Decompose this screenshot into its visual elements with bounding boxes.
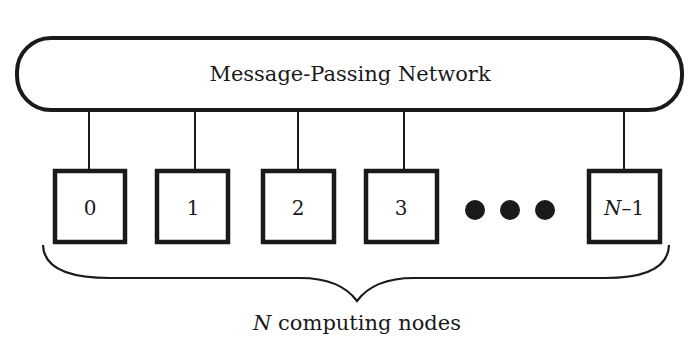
node-label-var: N (603, 196, 623, 220)
node-label: 3 (395, 196, 408, 220)
node-label-suffix: –1 (621, 196, 644, 220)
dot (500, 200, 520, 220)
node-1: 1 (157, 171, 228, 242)
dot (465, 200, 485, 220)
node-label: 1 (187, 196, 200, 220)
connector-lines (89, 110, 624, 170)
brace-label-text: computing nodes (271, 311, 461, 335)
node-n-minus-1: N–1 (589, 171, 660, 242)
ellipsis-dots-icon (465, 200, 555, 220)
node-label: 2 (292, 196, 305, 220)
message-passing-diagram: Message-Passing Network 0 1 2 3 N–1 N co… (0, 0, 699, 349)
node-label: N–1 (603, 196, 644, 220)
brace-label-var: N (252, 311, 272, 335)
node-label: 0 (84, 196, 97, 220)
node-2: 2 (263, 171, 334, 242)
dot (535, 200, 555, 220)
node-3: 3 (366, 171, 437, 242)
brace-label: N computing nodes (252, 311, 461, 335)
curly-brace (43, 245, 669, 301)
node-0: 0 (55, 171, 125, 242)
network-label: Message-Passing Network (209, 62, 490, 86)
